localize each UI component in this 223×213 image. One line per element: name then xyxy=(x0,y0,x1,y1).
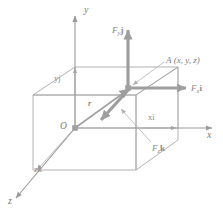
point-a-label: A (x, y, z) xyxy=(166,56,200,65)
force-fx-label: Fxi xyxy=(191,84,202,94)
box-right-face xyxy=(136,67,178,170)
leader-point-a xyxy=(133,62,164,85)
force-fx-unit-vector: i xyxy=(199,83,202,93)
point-a-marker xyxy=(125,85,131,91)
origin-label: O xyxy=(60,122,67,132)
component-markers xyxy=(37,68,176,170)
vector-diagram-figure: y x z O r yj xi zk Fyj Fxi Fzk A (x, y, … xyxy=(0,0,223,213)
x-axis-label: x xyxy=(207,130,211,140)
position-vector-label: r xyxy=(88,99,91,108)
y-axis-label: y xyxy=(84,5,88,15)
z-axis-label: z xyxy=(8,196,12,206)
z-axis xyxy=(16,128,75,198)
force-fy-unit-vector: j xyxy=(120,25,123,35)
point-a-coordinates: (x, y, z) xyxy=(174,55,200,65)
y-component-label: yj xyxy=(54,74,61,83)
force-vectors xyxy=(101,30,186,120)
z-component-label: zk xyxy=(34,165,42,174)
force-fz-label: Fzk xyxy=(152,144,165,154)
force-fy-label: Fyj xyxy=(112,26,123,36)
x-component-label: xi xyxy=(148,113,155,122)
origin-marker xyxy=(72,125,78,131)
force-fz-unit-vector: k xyxy=(160,143,165,153)
force-fz-arrow xyxy=(101,89,129,120)
z-component-arrow xyxy=(37,131,72,170)
